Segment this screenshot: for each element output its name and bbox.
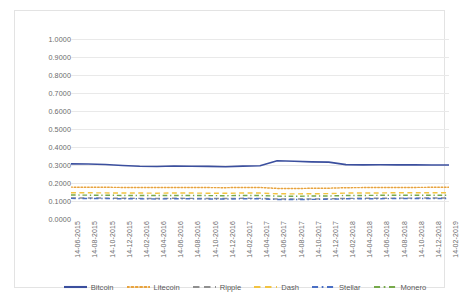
legend-label: Stellar [339,283,361,292]
legend-swatch-ripple [193,283,216,291]
x-axis-tick-label: 14-08-2016 [194,221,201,258]
x-axis-tick-label: 14-02-2017 [246,221,253,258]
chart-container: 0.00000.10000.20000.30000.40000.50000.60… [0,0,459,298]
x-axis-tick-label: 14-10-2017 [315,221,322,258]
series-line-monero [71,195,449,196]
y-axis-tick-label: 0.9000 [48,53,71,62]
x-axis-tick-label: 14-12-2015 [126,221,133,258]
chart-plot-frame: 0.00000.10000.20000.30000.40000.50000.60… [14,10,445,288]
x-axis-tick-label: 14-06-2017 [280,221,287,258]
x-axis-tick-label: 14-08-2015 [91,221,98,258]
y-axis-tick-label: 0.2000 [48,179,71,188]
y-axis-tick-label: 1.0000 [48,35,71,44]
legend-item-stellar[interactable]: Stellar [312,283,361,292]
plot-area [71,39,449,219]
legend-item-litecoin[interactable]: Litecoin [127,283,180,292]
y-axis-tick-label: 0.3000 [48,161,71,170]
legend-label: Monero [401,283,427,292]
x-axis: 14-06-201514-08-201514-10-201514-12-2015… [71,221,449,273]
x-axis-tick-label: 14-10-2016 [212,221,219,258]
series-line-dash [71,193,449,194]
y-axis-tick-label: 0.4000 [48,143,71,152]
legend-item-ripple[interactable]: Ripple [193,283,242,292]
x-axis-tick-label: 14-12-2018 [435,221,442,258]
legend-swatch-litecoin [127,283,150,291]
legend-label: Ripple [220,283,242,292]
legend-label: Dash [281,283,299,292]
y-axis-tick-label: 0.1000 [48,197,71,206]
x-axis-tick-label: 14-06-2016 [177,221,184,258]
y-axis-tick-label: 0.0000 [48,215,71,224]
legend-label: Bitcoin [91,283,114,292]
legend-swatch-bitcoin [64,283,87,291]
series-line-bitcoin [71,161,449,167]
x-axis-tick-label: 14-06-2018 [383,221,390,258]
x-axis-tick-label: 14-08-2017 [298,221,305,258]
x-axis-tick-label: 14-12-2017 [332,221,339,258]
x-axis-tick-label: 14-04-2016 [160,221,167,258]
legend-swatch-stellar [312,283,335,291]
y-axis-tick-label: 0.7000 [48,89,71,98]
x-axis-tick-label: 14-04-2017 [263,221,270,258]
series-line-litecoin [71,187,449,188]
legend-item-monero[interactable]: Monero [374,283,427,292]
x-axis-tick-label: 14-08-2018 [401,221,408,258]
x-axis-tick-label: 14-04-2018 [366,221,373,258]
legend-item-dash[interactable]: Dash [254,283,299,292]
legend-swatch-monero [374,283,397,291]
y-axis-tick-label: 0.8000 [48,71,71,80]
legend-swatch-dash [254,283,277,291]
x-axis-tick-label: 14-10-2018 [418,221,425,258]
y-axis-tick-label: 0.5000 [48,125,71,134]
legend-label: Litecoin [154,283,180,292]
legend-item-bitcoin[interactable]: Bitcoin [64,283,114,292]
chart-legend: BitcoinLitecoinRippleDashStellarMonero [35,279,455,295]
x-axis-tick-label: 14-10-2015 [109,221,116,258]
x-axis-tick-label: 14-02-2018 [349,221,356,258]
x-axis-tick-label: 14-02-2016 [143,221,150,258]
x-axis-tick-label: 14-12-2016 [229,221,236,258]
x-axis-tick-label: 14-02-2019 [452,221,459,258]
y-axis-tick-label: 0.6000 [48,107,71,116]
x-axis-tick-label: 14-06-2015 [74,221,81,258]
y-axis: 0.00000.10000.20000.30000.40000.50000.60… [29,39,71,219]
plot-svg [71,39,449,219]
